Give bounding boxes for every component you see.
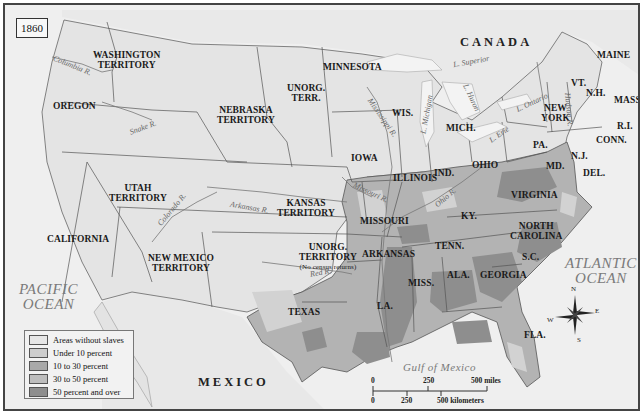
scale-miles-500: 500 miles	[471, 376, 501, 385]
label-line: TERRITORY	[93, 60, 160, 70]
legend-swatch-50-plus	[29, 387, 48, 397]
rhode-island-label: R.I.	[617, 121, 633, 131]
michigan-label: MICH.	[446, 123, 476, 133]
mississippi-label: MISS.	[408, 278, 434, 288]
compass-n: N	[571, 285, 576, 293]
nebraska-territory-label: NEBRASKA TERRITORY	[217, 105, 275, 125]
scale-miles-0: 0	[371, 376, 375, 385]
new-hampshire-label: N.H.	[586, 88, 605, 98]
legend-item: Under 10 percent	[29, 346, 129, 359]
washington-territory-label: WASHINGTON TERRITORY	[93, 50, 160, 70]
connecticut-label: CONN.	[596, 135, 627, 145]
label-line: NEBRASKA	[217, 105, 275, 115]
tennessee-label: TENN.	[435, 241, 464, 251]
legend-item: Areas without slaves	[29, 333, 129, 346]
pacific-line-2: OCEAN	[19, 297, 78, 312]
utah-territory-label: UTAH TERRITORY	[109, 183, 167, 203]
illinois-label: ILLINOIS	[393, 173, 437, 183]
legend-label: Areas without slaves	[53, 335, 124, 345]
label-line: UTAH	[109, 183, 167, 193]
label-line: TERRITORY	[277, 208, 335, 218]
new-mexico-territory-label: NEW MEXICO TERRITORY	[148, 253, 214, 273]
gulf-of-mexico-label: Gulf of Mexico	[403, 360, 476, 375]
arkansas-label: ARKANSAS	[362, 249, 415, 259]
legend-item: 10 to 30 percent	[29, 359, 129, 372]
legend-swatch-under-10	[29, 348, 48, 358]
delaware-label: DEL.	[583, 168, 605, 178]
compass-star	[545, 285, 605, 345]
atlantic-line-1: ATLANTIC	[565, 256, 637, 271]
label-line: TERRITORY	[109, 193, 167, 203]
north-carolina-label: NORTH CAROLINA	[510, 221, 563, 241]
label-line: TERRITORY	[148, 263, 214, 273]
oregon-label: OREGON	[53, 101, 96, 111]
legend-item: 30 to 50 percent	[29, 372, 129, 385]
legend-label: 10 to 30 percent	[53, 361, 108, 371]
georgia-label: GEORGIA	[480, 270, 527, 280]
new-jersey-label: N.J.	[571, 151, 588, 161]
scale-miles-250: 250	[423, 376, 434, 385]
label-line: KANSAS	[277, 198, 335, 208]
scale-km-250: 250	[401, 396, 412, 405]
legend-swatch-none	[29, 335, 48, 345]
label-line: UNORG.	[287, 83, 325, 93]
florida-label: FLA.	[524, 330, 546, 340]
year-label: 1860	[16, 18, 48, 38]
legend-label: Under 10 percent	[53, 348, 112, 358]
scale-km-0: 0	[371, 396, 375, 405]
label-line: TERRITORY	[299, 252, 357, 262]
minnesota-label: MINNESOTA	[323, 62, 382, 72]
texas-label: TEXAS	[288, 307, 320, 317]
louisiana-label: LA.	[377, 301, 393, 311]
massachusetts-label: MASS.	[614, 95, 640, 105]
kentucky-label: KY.	[461, 211, 477, 221]
compass-e: E	[595, 307, 599, 315]
wisconsin-label: WIS.	[392, 108, 413, 118]
scale-km-500: 500 kilometers	[437, 396, 484, 405]
label-line: TERRITORY	[217, 115, 275, 125]
pacific-ocean-label: PACIFIC OCEAN	[19, 282, 78, 312]
compass-w: W	[547, 316, 554, 324]
california-label: CALIFORNIA	[47, 234, 109, 244]
atlantic-line-2: OCEAN	[565, 271, 637, 286]
vermont-label: VT.	[571, 78, 586, 88]
label-line: TERR.	[287, 93, 325, 103]
label-line: NORTH	[510, 221, 563, 231]
pennsylvania-label: PA.	[533, 140, 548, 150]
kansas-territory-label: KANSAS TERRITORY	[277, 198, 335, 218]
slavery-map-1860: 1860 CANADA MEXICO PACIFIC OCEAN ATLANTI…	[3, 3, 640, 411]
iowa-label: IOWA	[351, 153, 378, 163]
label-line: NEW MEXICO	[148, 253, 214, 263]
south-carolina-label: S.C.	[522, 252, 539, 262]
legend-swatch-30-50	[29, 374, 48, 384]
scale-bar: 0 250 500 miles 0 250 500 kilometers	[371, 376, 491, 406]
label-line: WASHINGTON	[93, 50, 160, 60]
mexico-label: MEXICO	[198, 375, 269, 390]
unorg-terr-north-label: UNORG. TERR.	[287, 83, 325, 103]
legend-label: 30 to 50 percent	[53, 374, 108, 384]
maine-label: MAINE	[597, 50, 630, 60]
compass-rose-icon: N S E W	[545, 285, 605, 345]
compass-s: S	[577, 336, 581, 344]
alabama-label: ALA.	[447, 270, 470, 280]
ohio-label: OHIO	[472, 160, 498, 170]
canada-label: CANADA	[460, 35, 532, 50]
legend-item: 50 percent and over	[29, 385, 129, 398]
label-line: UNORG.	[299, 242, 357, 252]
maryland-label: MD.	[546, 161, 565, 171]
label-line: CAROLINA	[510, 231, 563, 241]
indiana-label: IND.	[434, 168, 454, 178]
pacific-line-1: PACIFIC	[19, 282, 78, 297]
atlantic-ocean-label: ATLANTIC OCEAN	[565, 256, 637, 286]
missouri-label: MISSOURI	[360, 216, 409, 226]
map-legend: Areas without slaves Under 10 percent 10…	[24, 330, 134, 399]
virginia-label: VIRGINIA	[511, 190, 558, 200]
legend-label: 50 percent and over	[53, 387, 120, 397]
legend-swatch-10-30	[29, 361, 48, 371]
